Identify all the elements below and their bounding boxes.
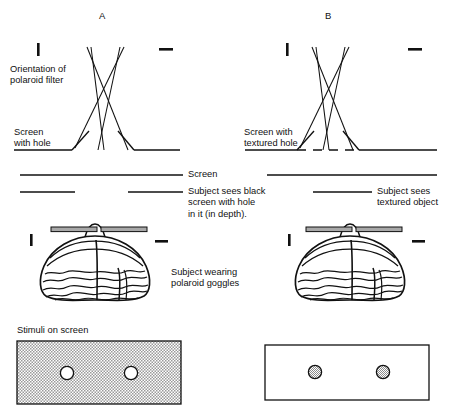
label-subject-wearing-goggles: Subject wearing polaroid goggles — [171, 267, 239, 290]
stimulus-rect-right — [265, 345, 429, 400]
filter-marks-top — [37, 43, 422, 56]
label-subject-sees-textured: Subject sees textured object — [377, 186, 449, 209]
figure-root: A B Orientation of polaroid filter Scree… — [0, 0, 449, 416]
goggle-lens-right-b — [356, 227, 402, 232]
label-polaroid-orientation: Orientation of polaroid filter — [10, 64, 66, 87]
head-figure-a — [40, 224, 149, 300]
stimulus-panel-left — [17, 341, 181, 404]
label-screen-with-hole: Screen with hole — [14, 127, 51, 150]
stimulus-hole-left-2 — [124, 366, 137, 379]
panel-a-rays — [75, 47, 128, 150]
panel-b-rays — [300, 47, 353, 150]
horizontal-bar-icon-a — [159, 48, 173, 51]
label-screen: Screen — [188, 169, 217, 180]
horizontal-bar-icon-goggle-b — [412, 240, 425, 243]
stimulus-disc-right-2 — [376, 365, 389, 378]
goggle-lens-left-a — [51, 227, 97, 232]
vertical-bar-icon-goggle-a — [30, 234, 33, 246]
horizontal-bar-icon-b — [408, 48, 422, 51]
vertical-bar-icon-goggle-b — [288, 234, 291, 246]
goggle-lens-right-a — [101, 227, 147, 232]
stimulus-disc-right-1 — [308, 365, 321, 378]
stimulus-panel-right — [265, 345, 429, 400]
head-figure-b — [295, 224, 404, 300]
label-screen-with-textured-hole: Screen with textured hole — [244, 127, 298, 150]
stimulus-hole-left-1 — [60, 366, 73, 379]
vertical-bar-icon-a — [37, 43, 40, 56]
stimulus-rect-left — [17, 341, 181, 404]
horizontal-bar-icon-goggle-a — [155, 240, 168, 243]
label-stimuli-on-screen: Stimuli on screen — [17, 325, 88, 336]
label-subject-sees-black: Subject sees black screen with hole in i… — [188, 186, 266, 220]
panel-label-a: A — [99, 10, 105, 21]
goggle-lens-left-b — [306, 227, 352, 232]
vertical-bar-icon-b — [286, 43, 289, 56]
panel-label-b: B — [325, 10, 331, 21]
